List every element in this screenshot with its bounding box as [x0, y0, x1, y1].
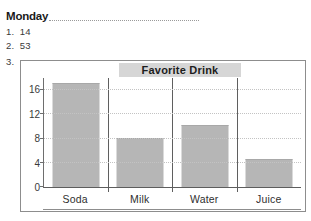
- x-axis-label-water: Water: [190, 193, 219, 205]
- y-axis-tick-mark: [40, 113, 44, 114]
- bar-slot: [238, 78, 302, 187]
- y-axis-origin-gap: [21, 188, 43, 210]
- x-axis-label-cell: Water: [172, 188, 237, 209]
- worksheet-header: Monday: [6, 6, 305, 22]
- x-axis-tick-mark: [172, 184, 173, 192]
- bar-chart-figure: Favorite Drink 0481216 SodaMilkWaterJuic…: [20, 60, 306, 212]
- x-axis-category-labels: SodaMilkWaterJuice: [43, 188, 301, 210]
- bar-juice: [246, 159, 293, 187]
- x-axis-label-soda: Soda: [63, 193, 88, 205]
- list-item-value: 53: [20, 40, 31, 51]
- y-axis-tick-mark: [40, 138, 44, 139]
- bar-water: [181, 125, 228, 187]
- bar-series: [44, 78, 301, 187]
- y-axis-tick-label: 12: [29, 110, 40, 120]
- plot-area: [43, 78, 301, 188]
- list-item-number: 1.: [6, 26, 17, 37]
- plot-wrapper: 0481216 SodaMilkWaterJuice: [21, 78, 305, 211]
- x-axis-label-milk: Milk: [130, 193, 149, 205]
- x-axis-tick-mark: [108, 184, 109, 192]
- bar-slot: [44, 78, 109, 187]
- y-axis-tick-mark: [40, 186, 44, 187]
- day-label: Monday: [6, 10, 48, 22]
- y-axis-tick-label: 4: [34, 159, 40, 169]
- y-axis-tick-label: 8: [34, 134, 40, 144]
- gridline: [44, 162, 301, 163]
- bar-soda: [52, 83, 99, 187]
- x-axis-label-cell: Soda: [43, 188, 108, 209]
- list-item: 3.: [6, 56, 17, 67]
- chart-title: Favorite Drink: [142, 64, 219, 76]
- list-item-number: 2.: [6, 40, 17, 51]
- x-axis-label-juice: Juice: [256, 193, 282, 205]
- chart-title-banner: Favorite Drink: [119, 63, 241, 77]
- list-item: 1. 14: [6, 26, 31, 37]
- header-write-line: [49, 20, 199, 21]
- y-axis-tick-label: 16: [29, 85, 40, 95]
- list-item-number: 3.: [6, 56, 17, 67]
- gridline: [44, 113, 301, 114]
- y-axis-tick-mark: [40, 162, 44, 163]
- y-axis-tick-labels: 0481216: [21, 78, 43, 188]
- x-axis-label-cell: Milk: [108, 188, 173, 209]
- bar-slot: [173, 78, 238, 187]
- gridline: [44, 138, 301, 139]
- gridline: [44, 89, 301, 90]
- x-axis-label-cell: Juice: [237, 188, 302, 209]
- x-axis-tick-mark: [237, 184, 238, 192]
- list-item: 2. 53: [6, 40, 31, 51]
- list-item-value: 14: [20, 26, 31, 37]
- bar-slot: [109, 78, 174, 187]
- y-axis-tick-mark: [40, 89, 44, 90]
